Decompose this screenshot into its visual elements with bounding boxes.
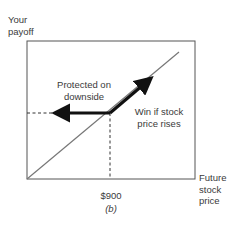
annotation-line: Protected on [48,79,120,91]
annotation-upside: Win if stock price rises [128,106,190,129]
y-axis-label-line: payoff [8,26,34,38]
x-axis-label: Future stock price [199,172,226,207]
annotation-line: price rises [128,118,190,130]
annotation-protected: Protected on downside [48,79,120,102]
strike-tick-label: $900 [96,190,126,202]
y-axis-label: Your payoff [8,14,34,37]
x-axis-label-line: stock [199,184,226,196]
x-axis-label-line: price [199,195,226,207]
annotation-line: Win if stock [128,106,190,118]
annotation-line: downside [48,91,120,103]
x-axis-label-line: Future [199,172,226,184]
panel-label: (b) [98,203,124,215]
y-axis-label-line: Your [8,14,34,26]
